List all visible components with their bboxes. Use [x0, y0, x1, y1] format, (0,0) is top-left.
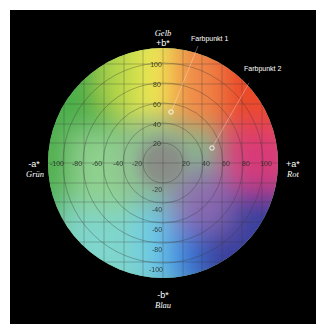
svg-text:-100: -100 [50, 160, 64, 167]
svg-text:40: 40 [153, 121, 161, 128]
color-point-2-label: Farbpunkt 2 [244, 65, 281, 73]
svg-text:-80: -80 [72, 160, 82, 167]
axis-symbol-right: +a* [286, 159, 300, 169]
svg-text:-20: -20 [152, 186, 162, 193]
svg-text:60: 60 [153, 101, 161, 108]
lab-color-diagram: -100 -80 -60 -40 -20 20 40 60 80 100 100… [0, 0, 326, 331]
axis-name-top: Gelb [155, 28, 172, 38]
svg-text:-60: -60 [152, 226, 162, 233]
svg-text:-40: -40 [152, 206, 162, 213]
svg-text:100: 100 [150, 61, 162, 68]
axis-symbol-bottom: -b* [157, 290, 169, 300]
svg-text:-20: -20 [132, 160, 142, 167]
svg-text:40: 40 [202, 160, 210, 167]
svg-text:-40: -40 [113, 160, 123, 167]
svg-text:20: 20 [182, 160, 190, 167]
axis-name-bottom: Blau [155, 300, 171, 310]
svg-text:80: 80 [242, 160, 250, 167]
svg-text:-60: -60 [92, 160, 102, 167]
svg-text:-100: -100 [149, 266, 163, 273]
axis-symbol-top: +b* [156, 38, 170, 48]
svg-text:100: 100 [260, 160, 272, 167]
axis-name-right: Rot [286, 169, 299, 179]
axis-symbol-left: -a* [28, 159, 40, 169]
color-point-1-label: Farbpunkt 1 [191, 35, 228, 43]
axis-name-left: Grün [26, 169, 44, 179]
svg-text:80: 80 [153, 81, 161, 88]
svg-text:60: 60 [222, 160, 230, 167]
svg-text:20: 20 [153, 140, 161, 147]
svg-text:-80: -80 [152, 246, 162, 253]
